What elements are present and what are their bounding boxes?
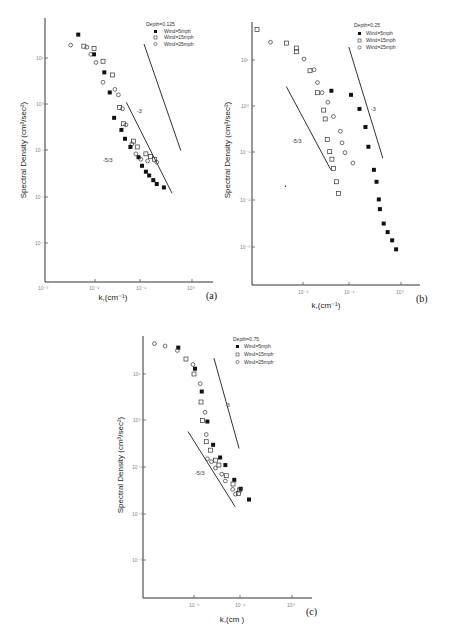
panel-c-legend-item: Wind=5mph (244, 343, 271, 349)
panel-a-label: (a) (206, 290, 217, 302)
data-point-open-square (192, 372, 196, 376)
data-point-open-square (323, 117, 327, 121)
data-point-open-square (208, 448, 212, 452)
data-point-open-square (322, 108, 326, 112)
panel-c-xtick: 10⁻² (189, 602, 200, 608)
data-point-filled-square (378, 207, 382, 211)
open-circle-icon (154, 42, 157, 45)
data-point-open-square (335, 180, 339, 184)
data-point-filled-square (382, 222, 386, 226)
panel-a-ytick: 10¹ (36, 55, 44, 61)
panel-c-ytick: 10⁻¹ (132, 464, 143, 470)
open-circle-icon (236, 360, 239, 363)
panel-a-ylabel: Spectral Density (cm³/sec²) (19, 101, 28, 198)
data-point-open-square (204, 440, 208, 444)
data-point-circle (214, 466, 218, 470)
data-point-filled-square (193, 367, 197, 371)
data-point-filled-square (372, 168, 376, 172)
data-point-open-square (217, 463, 221, 467)
filled-square-icon (236, 345, 239, 348)
panel-a: 10¹ 10⁰ 10⁻¹ 10⁻² 10⁻³ 10⁻³ 10⁻² 10⁻¹ 10… (19, 18, 217, 302)
data-point-circle (121, 107, 125, 111)
data-point-open-square (231, 482, 235, 486)
data-point-filled-square (218, 456, 222, 460)
panel-b-xtick: 10⁻¹ (344, 289, 355, 295)
data-point-circle (204, 433, 208, 437)
data-point-circle (124, 123, 128, 127)
panel-c-ytick: 10¹ (133, 371, 141, 377)
data-point-filled-square (366, 145, 370, 149)
panel-a-ytick: 10⁰ (36, 101, 44, 107)
data-point-open-square (135, 145, 139, 149)
panel-b-axes (252, 22, 420, 285)
data-point-open-square (325, 138, 329, 142)
data-point-circle (153, 342, 157, 346)
panel-a-xtick: 10⁻² (89, 285, 100, 291)
data-point-filled-square (223, 463, 227, 467)
data-point-open-square (101, 59, 105, 63)
panel-c-label: (c) (306, 606, 317, 618)
panel-c-ylabel: Spectral Density (cm³/sec²) (116, 416, 125, 513)
panel-c-slope-label: -5/3 (195, 470, 204, 476)
panel-b-legend-item: Wind=25mph (366, 44, 396, 50)
panel-a-ytick: 10⁻² (35, 194, 46, 200)
data-point-filled-square (162, 185, 166, 189)
data-point-filled-square (76, 33, 80, 37)
open-circle-icon (358, 46, 361, 49)
data-point-filled-square (151, 178, 155, 182)
data-point-circle (198, 382, 202, 386)
data-point-circle (332, 115, 336, 119)
panel-c-reference-lines (188, 358, 239, 507)
panel-a-data-points (69, 33, 166, 190)
panel-b-slope-label: -5/3 (292, 138, 301, 144)
data-point-open-square (110, 73, 114, 77)
data-point-open-square (328, 150, 332, 154)
data-point-circle (163, 344, 167, 348)
data-point-open-square (122, 122, 126, 126)
data-point-open-square (224, 474, 228, 478)
data-point-filled-square (137, 155, 141, 159)
figure-canvas: 10¹ 10⁰ 10⁻¹ 10⁻² 10⁻³ 10⁻³ 10⁻² 10⁻¹ 10… (0, 0, 450, 640)
panel-c-ytick: 10⁻² (132, 511, 143, 517)
data-point-circle (101, 80, 105, 84)
data-point-circle (94, 61, 98, 65)
data-point-circle (312, 68, 316, 72)
data-point-circle (203, 410, 207, 414)
data-point-filled-square (119, 128, 123, 132)
data-point-open-square (92, 47, 96, 51)
panel-c-xtick: 10⁻¹ (235, 602, 246, 608)
panel-c-slope-label: -3 (225, 402, 230, 408)
data-point-filled-square (239, 487, 243, 491)
open-square-icon (154, 36, 157, 39)
data-point-filled-square (140, 164, 144, 168)
panel-b-xtick: 10⁻² (298, 289, 309, 295)
panel-b-slope-label: -3 (371, 106, 376, 112)
data-point-circle (69, 43, 73, 47)
data-point-circle (351, 161, 355, 165)
panel-a-slope-label: -5/3 (103, 157, 112, 163)
data-point-circle (139, 157, 143, 161)
data-point-filled-square (375, 180, 379, 184)
data-point-circle (340, 141, 344, 145)
panel-c-legend-title: Depth=0.75 (233, 336, 259, 342)
data-point-open-square (144, 152, 148, 156)
data-point-circle (326, 100, 330, 104)
data-point-circle (320, 91, 324, 95)
data-point-filled-square (394, 247, 398, 251)
data-point-open-square (315, 91, 319, 95)
data-point-circle (134, 152, 138, 156)
data-point-circle (146, 159, 150, 163)
data-point-filled-square (386, 230, 390, 234)
data-point-circle (113, 87, 117, 91)
panel-a-xtick: 10⁰ (187, 285, 195, 291)
panel-b-ytick: 10⁰ (241, 103, 249, 109)
data-point-filled-square (147, 173, 151, 177)
data-point-filled-square (205, 420, 209, 424)
stray-mark (285, 186, 287, 188)
data-point-filled-square (112, 116, 116, 120)
panel-a-legend-item: Wind=25mph (164, 41, 194, 47)
panel-b-legend-item: Wind=5mph (366, 30, 393, 36)
panel-a-xlabel: k,(cm⁻¹) (99, 293, 128, 302)
data-point-circle (191, 363, 195, 367)
slope-reference-line (349, 47, 383, 158)
